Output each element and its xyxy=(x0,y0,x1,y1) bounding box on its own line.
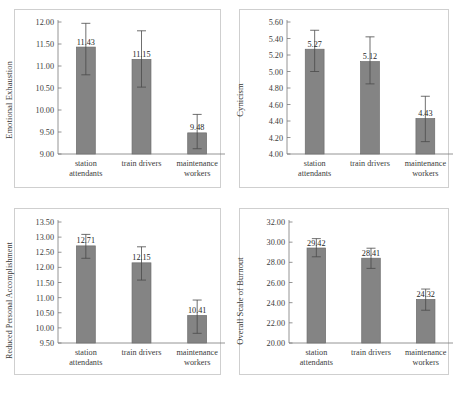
chart-panel-cynicism: Cynicism 4.004.204.404.604.805.005.205.4… xyxy=(231,0,461,200)
svg-text:11.43: 11.43 xyxy=(77,38,95,47)
svg-text:station: station xyxy=(75,159,97,168)
svg-text:28.00: 28.00 xyxy=(267,258,285,267)
plot-area: 9.5010.0010.5011.0011.5012.0012.5013.001… xyxy=(16,200,231,401)
svg-text:10.00: 10.00 xyxy=(36,106,54,115)
y-axis-title-text: Reduced Personal Accomplishment xyxy=(5,242,14,359)
svg-text:workers: workers xyxy=(412,169,438,178)
svg-text:5.20: 5.20 xyxy=(269,51,283,60)
svg-text:10.50: 10.50 xyxy=(36,84,54,93)
svg-text:station: station xyxy=(75,348,97,357)
chart-panel-emotional-exhaustion: Emotional Exhaustion 9.009.5010.0010.501… xyxy=(0,0,231,200)
svg-text:4.60: 4.60 xyxy=(269,101,283,110)
plot-area: 4.004.204.404.604.805.005.205.405.605.27… xyxy=(247,0,461,200)
bar-chart-reduced-personal-accomplishment: 9.5010.0010.5011.0011.5012.0012.5013.001… xyxy=(16,200,231,401)
svg-text:29.42: 29.42 xyxy=(307,239,325,248)
bar-chart-cynicism: 4.004.204.404.604.805.005.205.405.605.27… xyxy=(247,0,461,200)
svg-text:attendants: attendants xyxy=(69,169,102,178)
bar-chart-emotional-exhaustion: 9.009.5010.0010.5011.0011.5012.0011.43st… xyxy=(18,0,231,200)
svg-text:11.15: 11.15 xyxy=(132,50,150,59)
y-axis-title-text: Overall Scale of Burnout xyxy=(235,257,245,345)
svg-text:30.00: 30.00 xyxy=(267,238,285,247)
svg-text:maintenance: maintenance xyxy=(405,348,447,357)
svg-text:attendants: attendants xyxy=(69,358,102,367)
svg-text:workers: workers xyxy=(412,358,438,367)
svg-text:train drivers: train drivers xyxy=(122,348,162,357)
svg-text:9.48: 9.48 xyxy=(190,123,204,132)
svg-text:20.00: 20.00 xyxy=(267,339,285,348)
svg-text:station: station xyxy=(305,348,327,357)
svg-text:5.40: 5.40 xyxy=(269,35,283,44)
svg-text:train drivers: train drivers xyxy=(122,159,162,168)
svg-text:12.71: 12.71 xyxy=(77,236,95,245)
svg-text:24.32: 24.32 xyxy=(416,290,434,299)
svg-text:maintenance: maintenance xyxy=(176,159,218,168)
svg-text:5.60: 5.60 xyxy=(269,18,283,27)
svg-text:11.00: 11.00 xyxy=(36,294,54,303)
svg-text:32.00: 32.00 xyxy=(267,218,285,227)
chart-panel-overall-scale-of-burnout: Overall Scale of Burnout 20.0022.0024.00… xyxy=(231,200,461,401)
chart-panel-reduced-personal-accomplishment: Reduced Personal Accomplishment 9.5010.0… xyxy=(0,200,231,401)
y-axis-title-text: Cynicism xyxy=(235,83,245,116)
svg-text:22.00: 22.00 xyxy=(267,319,285,328)
svg-text:12.00: 12.00 xyxy=(36,263,54,272)
svg-text:attendants: attendants xyxy=(300,358,333,367)
svg-text:5.00: 5.00 xyxy=(269,68,283,77)
svg-text:9.00: 9.00 xyxy=(40,150,54,159)
svg-text:train drivers: train drivers xyxy=(350,159,390,168)
svg-text:5.27: 5.27 xyxy=(308,40,322,49)
svg-text:26.00: 26.00 xyxy=(267,279,285,288)
svg-text:9.50: 9.50 xyxy=(40,128,54,137)
svg-text:5.12: 5.12 xyxy=(363,52,377,61)
svg-text:13.00: 13.00 xyxy=(36,233,54,242)
svg-text:13.50: 13.50 xyxy=(36,218,54,227)
y-axis-title: Emotional Exhaustion xyxy=(0,0,18,200)
svg-text:10.00: 10.00 xyxy=(36,324,54,333)
figure-grid: Emotional Exhaustion 9.009.5010.0010.501… xyxy=(0,0,461,401)
svg-text:11.50: 11.50 xyxy=(36,279,54,288)
svg-text:maintenance: maintenance xyxy=(405,159,447,168)
svg-text:24.00: 24.00 xyxy=(267,299,285,308)
svg-text:maintenance: maintenance xyxy=(176,348,218,357)
svg-text:4.80: 4.80 xyxy=(269,84,283,93)
svg-text:attendants: attendants xyxy=(298,169,331,178)
svg-text:10.41: 10.41 xyxy=(188,306,206,315)
y-axis-title-text: Emotional Exhaustion xyxy=(4,61,14,139)
svg-text:workers: workers xyxy=(184,358,210,367)
svg-text:28.41: 28.41 xyxy=(362,249,380,258)
bar-chart-overall-scale-of-burnout: 20.0022.0024.0026.0028.0030.0032.0029.42… xyxy=(247,200,461,401)
svg-text:workers: workers xyxy=(184,169,210,178)
svg-text:11.00: 11.00 xyxy=(36,62,54,71)
svg-text:station: station xyxy=(304,159,326,168)
svg-text:4.20: 4.20 xyxy=(269,134,283,143)
svg-text:4.00: 4.00 xyxy=(269,150,283,159)
plot-area: 9.009.5010.0010.5011.0011.5012.0011.43st… xyxy=(18,0,231,200)
svg-text:9.50: 9.50 xyxy=(40,339,54,348)
svg-text:12.15: 12.15 xyxy=(132,253,150,262)
svg-text:train drivers: train drivers xyxy=(351,348,391,357)
svg-text:12.50: 12.50 xyxy=(36,248,54,257)
svg-text:12.00: 12.00 xyxy=(36,18,54,27)
plot-area: 20.0022.0024.0026.0028.0030.0032.0029.42… xyxy=(247,200,461,401)
svg-text:11.50: 11.50 xyxy=(36,40,54,49)
svg-text:4.40: 4.40 xyxy=(269,117,283,126)
svg-text:4.43: 4.43 xyxy=(418,109,432,118)
svg-text:10.50: 10.50 xyxy=(36,309,54,318)
